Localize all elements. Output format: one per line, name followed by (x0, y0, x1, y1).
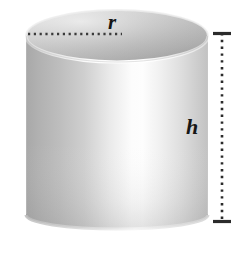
cylinder-figure: r h (0, 0, 242, 257)
height-label: h (186, 116, 198, 138)
height-dimension-line (213, 33, 231, 222)
cylinder-top-face (26, 10, 208, 62)
radius-label: r (108, 12, 116, 33)
cylinder-body-vertical-shade (26, 36, 208, 229)
cylinder-illustration (0, 0, 242, 257)
cylinder-body (26, 36, 208, 229)
